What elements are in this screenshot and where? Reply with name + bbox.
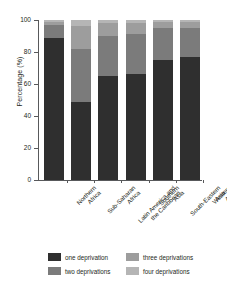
x-category-label: Sub-SaharanAfrica	[106, 184, 142, 220]
bar-segment	[98, 76, 118, 180]
stacked-bar	[71, 20, 91, 180]
legend-item[interactable]: three deprivations	[126, 253, 208, 261]
legend-item[interactable]: two deprivations	[48, 267, 126, 275]
chart-legend: one deprivationthree deprivationstwo dep…	[48, 250, 208, 278]
legend-swatch	[126, 267, 139, 275]
bar-segment	[180, 28, 200, 57]
bar-segment	[71, 26, 91, 48]
y-tick: 60	[34, 84, 38, 85]
stacked-bar	[153, 20, 173, 180]
legend-swatch	[48, 253, 61, 261]
legend-label: two deprivations	[65, 268, 111, 275]
y-tick: 20	[34, 148, 38, 149]
bar-segment	[71, 102, 91, 180]
bar-segment	[44, 38, 64, 180]
stacked-bar	[44, 20, 64, 180]
legend-item[interactable]: four deprivations	[126, 267, 208, 275]
stacked-bar	[98, 20, 118, 180]
bar-segment	[126, 34, 146, 74]
legend-label: three deprivations	[143, 254, 193, 261]
x-axis-line	[38, 180, 202, 181]
legend-label: four deprivations	[143, 268, 190, 275]
stacked-bar	[180, 20, 200, 180]
y-axis-line	[38, 20, 39, 180]
legend-label: one deprivation	[65, 254, 108, 261]
y-tick: 0	[34, 180, 38, 181]
bar-segment	[44, 25, 64, 38]
y-tick: 40	[34, 116, 38, 117]
bar-segment	[98, 36, 118, 76]
y-tick-label: 20	[24, 144, 31, 151]
bar-segment	[126, 74, 146, 180]
bar-segment	[153, 60, 173, 180]
y-tick: 80	[34, 52, 38, 53]
y-tick-label: 100	[20, 16, 31, 23]
y-tick: 100	[34, 20, 38, 21]
stacked-bar	[126, 20, 146, 180]
legend-swatch	[48, 267, 61, 275]
bar-segment	[98, 23, 118, 36]
x-axis-category-labels: NorthernAfricaSub-SaharanAfricaLatin Ame…	[0, 182, 227, 242]
bar-segment	[153, 28, 173, 60]
chart-plot-area: Percentage (%) 020406080100	[0, 0, 227, 200]
chart-root: Percentage (%) 020406080100 NorthernAfri…	[0, 0, 227, 283]
legend-item[interactable]: one deprivation	[48, 253, 126, 261]
axis-area: 020406080100	[38, 20, 202, 180]
bar-segment	[126, 23, 146, 34]
legend-swatch	[126, 253, 139, 261]
bar-segment	[180, 57, 200, 180]
y-tick-label: 60	[24, 80, 31, 87]
y-axis-label: Percentage (%)	[16, 37, 23, 127]
x-category-label: NorthernAfrica	[75, 184, 102, 211]
bar-segment	[71, 49, 91, 102]
y-tick-label: 80	[24, 48, 31, 55]
y-tick-label: 40	[24, 112, 31, 119]
